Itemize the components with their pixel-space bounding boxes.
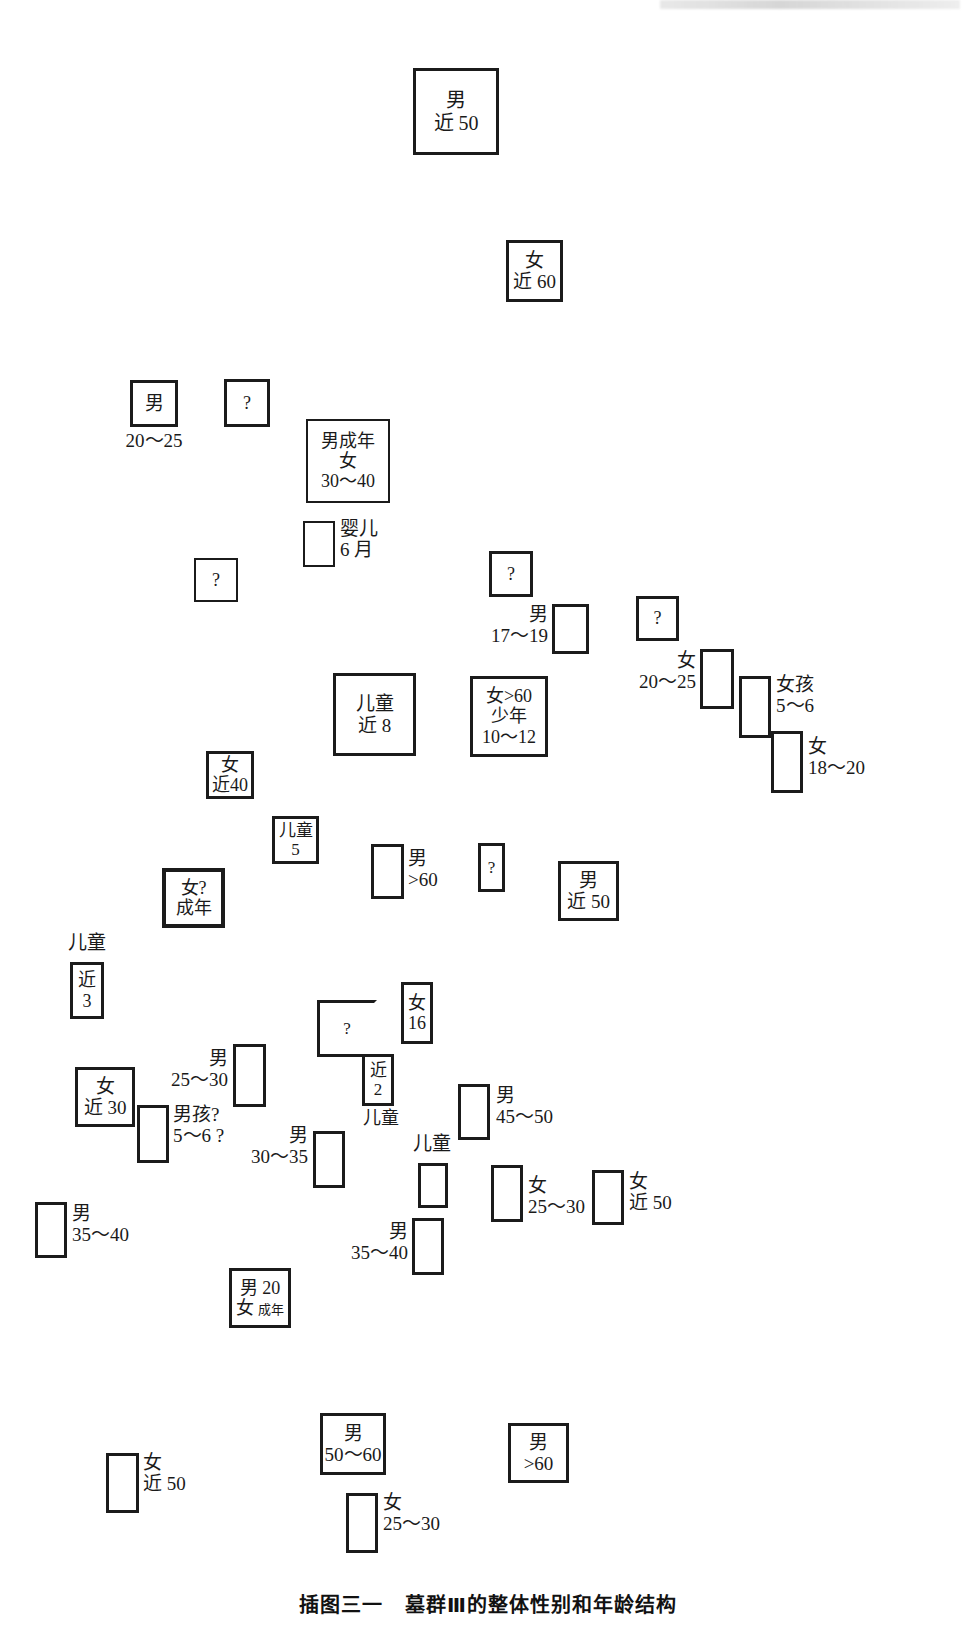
grave-label-sex: 女 — [221, 755, 239, 775]
grave-label-g31: 儿童 — [404, 1133, 460, 1154]
grave-label-sex: 儿童 — [356, 693, 394, 714]
grave-box-g34[interactable] — [35, 1202, 67, 1258]
grave-label-g18: 男 >60 — [408, 848, 438, 891]
grave-label-juvenile: 少年 — [491, 706, 527, 726]
grave-box-g31[interactable] — [418, 1163, 448, 1208]
grave-label-g39: 女 近 50 — [143, 1452, 186, 1495]
grave-box-g39[interactable] — [106, 1453, 139, 1513]
grave-box-g29[interactable] — [458, 1084, 490, 1140]
grave-label-age: 5 — [291, 840, 300, 859]
grave-label-sex: 男 — [529, 1432, 548, 1453]
grave-label-sex: 男 — [145, 393, 164, 414]
grave-label-age: 近 8 — [358, 715, 391, 736]
grave-label-g36: 女 近 50 — [629, 1171, 672, 1214]
grave-box-g19[interactable]: ? — [478, 843, 505, 892]
grave-box-g07[interactable]: ? — [194, 558, 238, 602]
grave-box-g13[interactable] — [700, 649, 734, 709]
figure-caption-title: 墓群Ⅲ的整体性别和年龄结构 — [405, 1593, 677, 1617]
grave-box-g12[interactable]: 女>60 少年 10～12 — [470, 676, 548, 757]
grave-label-g25: 男 25～30 — [160, 1048, 228, 1091]
grave-label-female-old: 女>60 — [486, 686, 532, 706]
grave-label-g06: 婴儿 6 月 — [340, 518, 378, 561]
grave-box-g23[interactable]: ? — [317, 1000, 377, 1057]
grave-label-age: 近 50 — [434, 112, 479, 134]
grave-label-age: 16 — [408, 1013, 426, 1033]
grave-box-g20[interactable]: 男 近 50 — [558, 861, 619, 921]
scan-artifact — [660, 0, 960, 9]
grave-label-age: 近 60 — [513, 271, 556, 292]
grave-box-g37[interactable]: 男 50～60 — [320, 1413, 386, 1475]
grave-label-female: 女成年 — [236, 1298, 284, 1318]
grave-box-g04[interactable]: ? — [224, 379, 270, 427]
grave-box-g21[interactable]: 女? 成年 — [162, 868, 225, 928]
grave-label-g15: 女 18～20 — [808, 736, 865, 779]
grave-box-g03[interactable]: 男 — [130, 380, 178, 427]
grave-box-g10[interactable]: ? — [636, 596, 679, 641]
grave-label-sex: 男 — [344, 1423, 363, 1444]
grave-box-g08[interactable]: ? — [489, 551, 533, 597]
grave-box-g22[interactable]: 近 3 — [70, 962, 104, 1019]
grave-label-sex: 女 — [96, 1076, 115, 1097]
grave-box-g15[interactable] — [771, 731, 803, 793]
grave-label-g40: 女 25～30 — [383, 1492, 440, 1535]
grave-label-age-line1: 近 — [78, 970, 96, 990]
grave-box-g01[interactable]: 男 近 50 — [413, 68, 499, 155]
grave-box-g26[interactable]: 近 2 — [362, 1054, 394, 1106]
grave-label-sex-male: 男成年 — [321, 431, 375, 451]
grave-box-g35[interactable] — [491, 1165, 523, 1222]
figure-canvas: 男 近 50 女 近 60 男 20～25 ? 男成年 女 30～40 — [0, 0, 976, 1651]
grave-label-unknown: ? — [507, 564, 515, 584]
grave-label-g22-sex: 儿童 — [55, 932, 119, 953]
grave-box-g06[interactable] — [303, 521, 335, 567]
grave-label-male-age: 男 20 — [240, 1278, 281, 1298]
grave-label-g35: 女 25～30 — [528, 1175, 585, 1218]
grave-label-g29: 男 45～50 — [496, 1085, 553, 1128]
grave-box-g11[interactable]: 儿童 近 8 — [333, 673, 416, 756]
grave-label-age: >60 — [524, 1453, 554, 1474]
figure-caption-number: 插图三一 — [299, 1593, 383, 1617]
grave-label-sex: 女 — [525, 250, 544, 271]
grave-box-g33[interactable]: 男 20 女成年 — [229, 1268, 291, 1328]
grave-box-g14[interactable] — [739, 676, 771, 738]
grave-box-g16[interactable]: 女 近40 — [206, 751, 254, 799]
grave-label-g09: 男 17～19 — [478, 604, 548, 647]
grave-label-unknown: ? — [343, 1019, 351, 1038]
grave-box-g17[interactable]: 儿童 5 — [272, 816, 319, 864]
grave-label-age: 30～40 — [321, 471, 375, 491]
grave-label-age: 近40 — [212, 775, 248, 795]
grave-label-unknown: ? — [654, 608, 662, 628]
grave-box-g32[interactable] — [412, 1218, 444, 1275]
grave-box-g40[interactable] — [346, 1493, 378, 1553]
grave-label-age: 近 50 — [567, 891, 610, 912]
grave-box-g02[interactable]: 女 近 60 — [506, 240, 563, 302]
grave-label-unknown: ? — [488, 858, 496, 877]
grave-label-age-line1: 近 — [370, 1061, 387, 1080]
grave-label-unknown: ? — [212, 570, 220, 590]
grave-label-sex: 女? — [181, 878, 207, 898]
grave-label-g30: 男 30～35 — [240, 1125, 308, 1168]
grave-label-age: 10～12 — [482, 727, 536, 747]
grave-box-g36[interactable] — [592, 1170, 624, 1225]
grave-label-sex: 男 — [446, 89, 466, 111]
grave-box-g09[interactable] — [552, 604, 589, 654]
grave-label-g34: 男 35～40 — [72, 1203, 129, 1246]
grave-box-g24[interactable]: 女 16 — [401, 982, 433, 1044]
grave-label-sex: 儿童 — [279, 821, 313, 840]
grave-label-sex-female: 女 — [339, 451, 357, 471]
grave-label-g14: 女孩 5～6 — [776, 674, 814, 717]
grave-label-age-line2: 2 — [374, 1080, 383, 1099]
grave-box-g38[interactable]: 男 >60 — [508, 1423, 569, 1483]
grave-box-g27[interactable]: 女 近 30 — [75, 1067, 135, 1127]
grave-box-g30[interactable] — [313, 1131, 345, 1188]
grave-box-g05[interactable]: 男成年 女 30～40 — [306, 419, 390, 503]
grave-box-g28[interactable] — [137, 1105, 169, 1163]
grave-label-unknown: ? — [243, 393, 251, 413]
grave-label-age: 成年 — [176, 898, 212, 918]
grave-box-g25[interactable] — [233, 1044, 266, 1107]
grave-label-age: 近 30 — [84, 1097, 127, 1118]
grave-label-g28: 男孩? 5～6 ? — [173, 1104, 224, 1147]
grave-label-g13: 女 20～25 — [628, 650, 696, 693]
grave-box-g18[interactable] — [371, 844, 404, 899]
grave-label-sex: 女 — [408, 993, 426, 1013]
figure-caption: 插图三一墓群Ⅲ的整体性别和年龄结构 — [0, 1589, 976, 1618]
